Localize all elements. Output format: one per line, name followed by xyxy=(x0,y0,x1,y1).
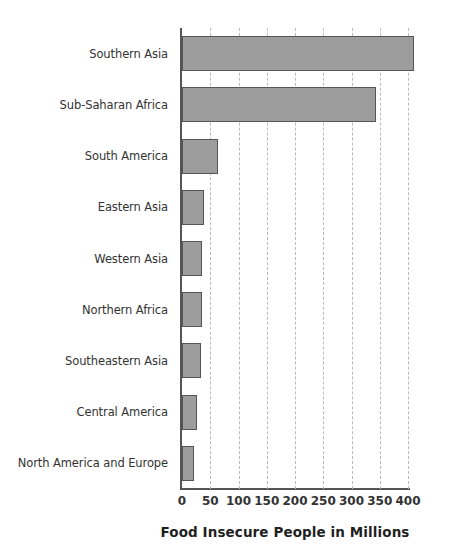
bar xyxy=(182,343,201,378)
bar xyxy=(182,87,376,122)
y-axis-category-label: Southeastern Asia xyxy=(0,354,168,368)
y-axis-category-label: Western Asia xyxy=(0,252,168,266)
plot-area xyxy=(182,28,414,489)
y-axis-category-label: Central America xyxy=(0,405,168,419)
bar xyxy=(182,446,194,481)
bar-chart: Southern AsiaSub-Saharan AfricaSouth Ame… xyxy=(0,0,470,560)
y-axis-category-label: Sub-Saharan Africa xyxy=(0,98,168,112)
bar xyxy=(182,241,202,276)
x-axis-tick-label: 400 xyxy=(395,494,420,508)
y-axis-category-label: North America and Europe xyxy=(0,456,168,470)
y-axis-category-label: Northern Africa xyxy=(0,303,168,317)
y-axis-category-label: Southern Asia xyxy=(0,47,168,61)
y-axis-labels: Southern AsiaSub-Saharan AfricaSouth Ame… xyxy=(0,28,172,489)
bar xyxy=(182,36,414,71)
x-axis-tick-label: 350 xyxy=(367,494,392,508)
y-axis-category-label: South America xyxy=(0,149,168,163)
bar xyxy=(182,395,197,430)
x-axis-tick-label: 200 xyxy=(282,494,307,508)
bar xyxy=(182,139,218,174)
x-axis-tick-label: 0 xyxy=(178,494,186,508)
x-axis-tick-label: 100 xyxy=(226,494,251,508)
bar xyxy=(182,292,202,327)
bar-series xyxy=(182,28,414,489)
bar xyxy=(182,190,204,225)
y-axis-category-label: Eastern Asia xyxy=(0,200,168,214)
x-axis-tick-label: 50 xyxy=(202,494,219,508)
x-axis-title: Food Insecure People in Millions xyxy=(0,524,470,540)
x-axis-tick-label: 300 xyxy=(339,494,364,508)
x-axis-title-text: Food Insecure People in Millions xyxy=(60,524,409,540)
x-axis-tick-label: 250 xyxy=(311,494,336,508)
x-axis-tick-label: 150 xyxy=(254,494,279,508)
